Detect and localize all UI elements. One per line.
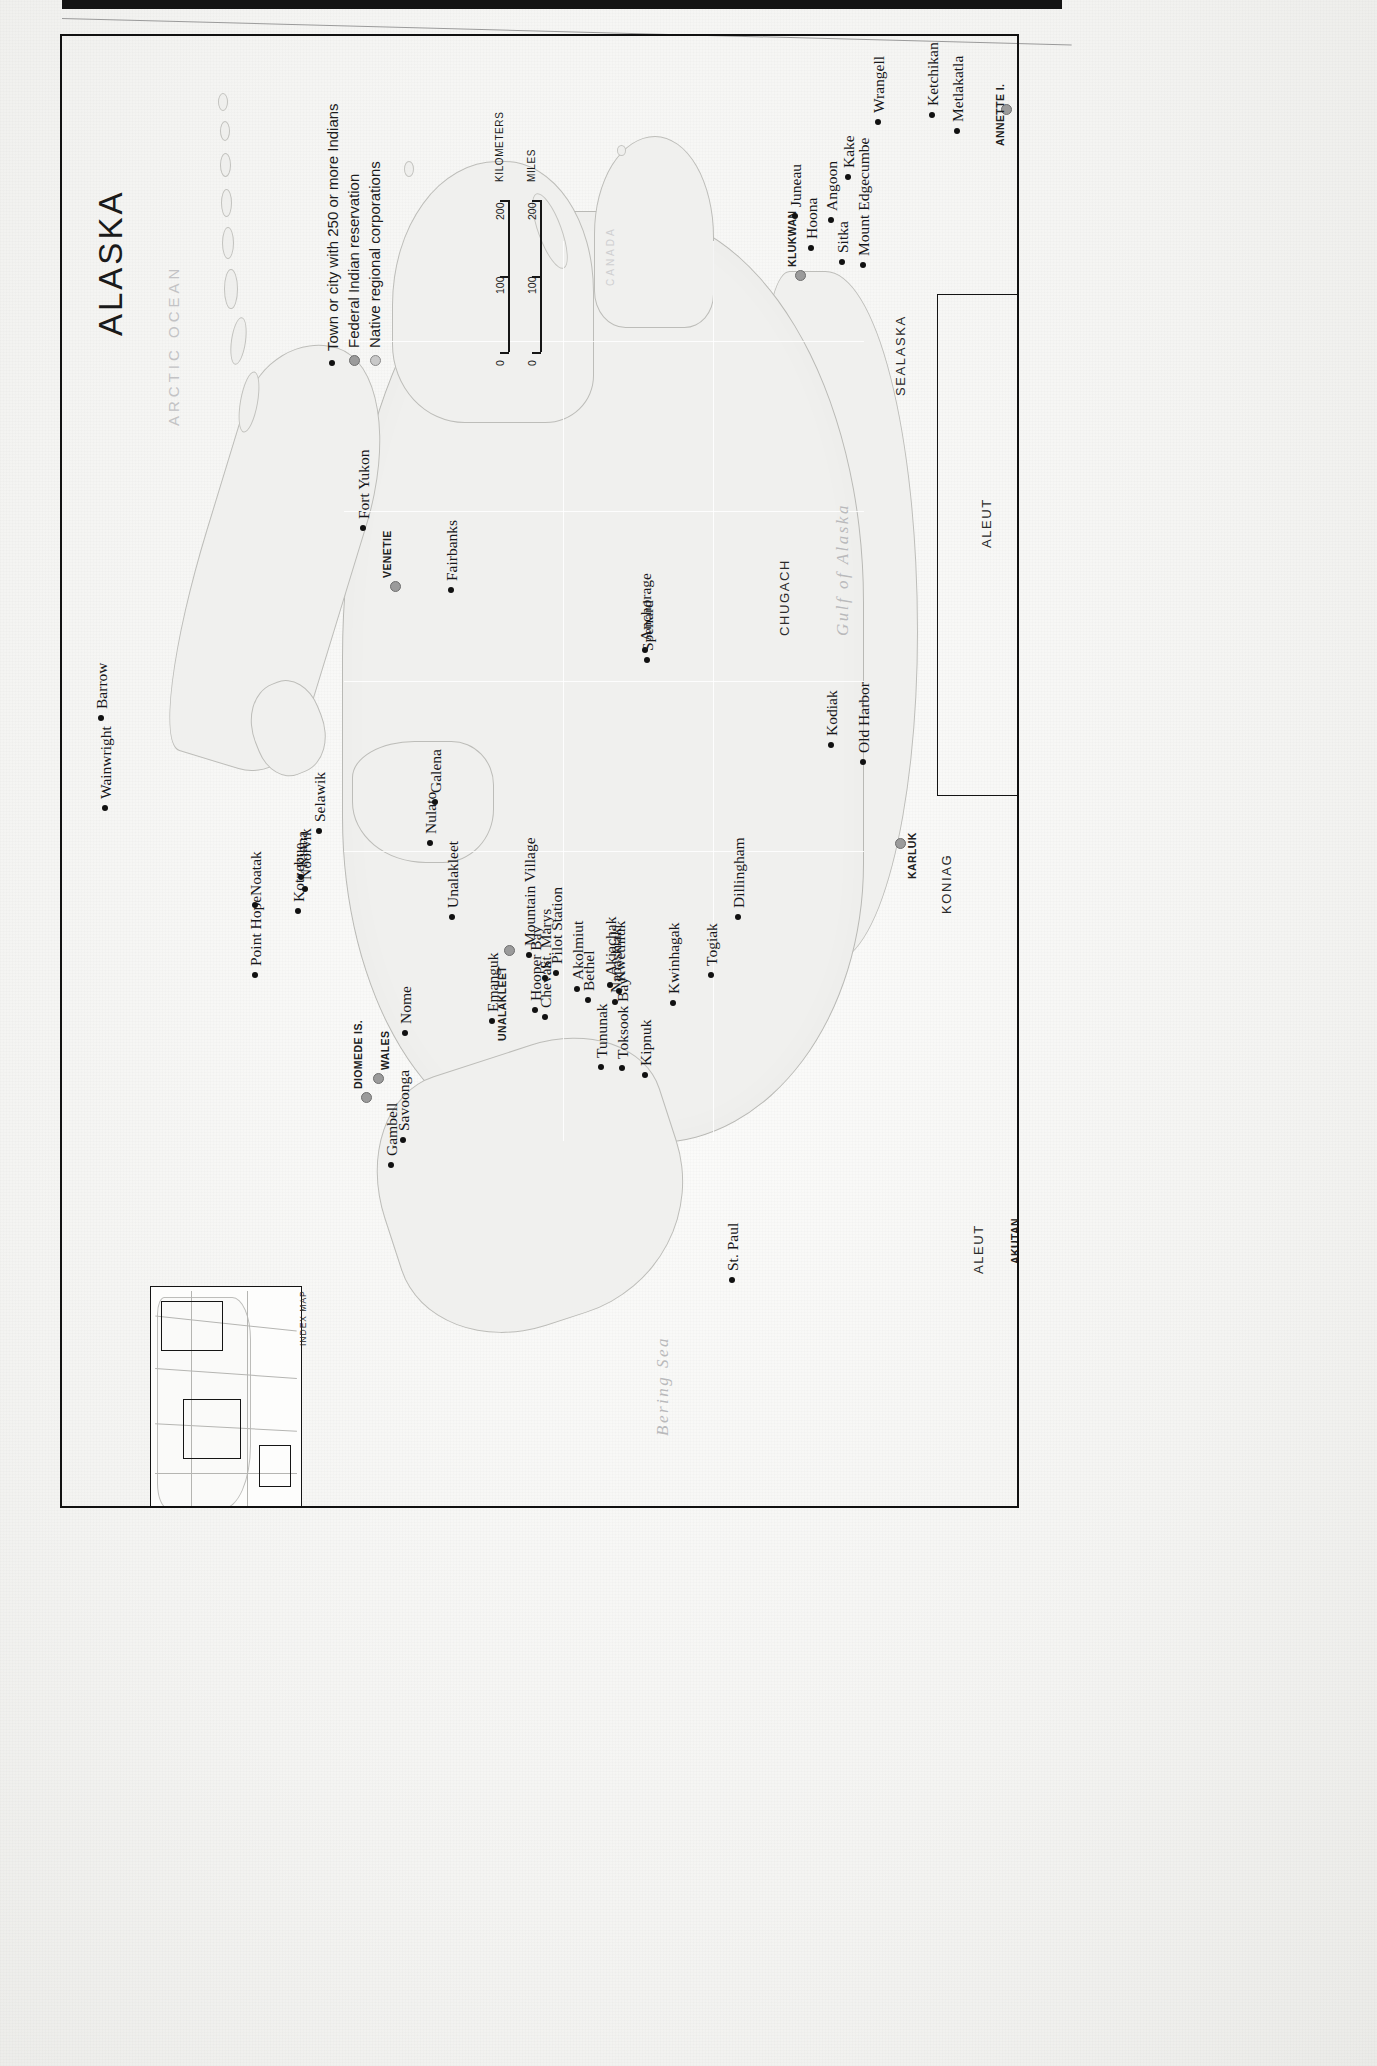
graticule-line [563,241,564,1141]
town-dot[interactable] [860,262,866,268]
town-dot[interactable] [792,213,798,219]
scale-unit-label: MILES [526,149,537,182]
reservation-dot-klukwan[interactable] [795,270,806,281]
reservation-label-diomede: DIOMEDE IS. [353,1020,364,1089]
water-label-arctic-ocean: ARCTIC OCEAN [166,265,181,426]
town-dot[interactable] [670,1000,676,1006]
town-dot[interactable] [929,112,935,118]
town-dot[interactable] [954,128,960,134]
reservation-dot-icon [349,355,360,366]
town-dot[interactable] [449,914,455,920]
town-label: Kwinhagak [666,923,682,994]
page-title: ALASKA [92,190,130,336]
town-dot[interactable] [400,1137,406,1143]
town-label: Pilot Station [549,887,565,964]
town-dot[interactable] [448,587,454,593]
town-dot[interactable] [585,997,591,1003]
aleutian-island [222,227,234,259]
town-label: Noorvik [298,828,314,880]
aleutian-island [218,93,228,111]
aleutian-island [220,121,230,141]
town-label: Hoona [804,198,820,239]
legend-label: Native regional corporations [366,161,383,348]
town-label: Fairbanks [444,520,460,581]
town-dot[interactable] [729,1277,735,1283]
reservation-dot-venetie[interactable] [390,581,401,592]
scale-tick-label: 200 [526,202,538,220]
town-label: Dillingham [731,837,747,908]
country-label-canada: CANADA [606,226,616,286]
town-dot[interactable] [845,174,851,180]
town-dot[interactable] [432,799,438,805]
index-highlight-box[interactable] [259,1445,291,1487]
index-highlight-box[interactable] [183,1399,241,1459]
town-dot[interactable] [526,952,532,958]
aleutian-island [228,316,250,366]
town-label: Metlakatla [950,56,966,122]
town-dot[interactable] [598,1064,604,1070]
graticule-line [344,511,864,512]
town-label: Togiak [704,923,720,966]
town-dot[interactable] [735,914,741,920]
town-label: Emanguk [485,953,501,1012]
town-dot[interactable] [708,972,714,978]
water-label-gulf-of-alaska: Gulf of Alaska [834,503,851,636]
town-label: Kipnuk [638,1020,654,1067]
town-dot[interactable] [489,1018,495,1024]
town-dot[interactable] [839,259,845,265]
town-label: Nome [398,986,414,1024]
legend-item-reservation: Federal Indian reservation [345,174,362,366]
reservation-dot-karluk[interactable] [895,838,906,849]
town-dot[interactable] [102,805,108,811]
reservation-dot-unalakleet[interactable] [504,945,515,956]
town-dot[interactable] [642,1072,648,1078]
scale-tick-label: 0 [494,360,506,366]
legend-item-town: Town or city with 250 or more Indians [324,103,341,366]
index-highlight-box[interactable] [161,1301,223,1351]
town-dot[interactable] [316,828,322,834]
town-dot[interactable] [295,908,301,914]
town-dot[interactable] [542,975,548,981]
corporation-label-koniag: KONIAG [940,854,953,914]
reservation-label-venetie: VENETIE [382,530,393,578]
town-label: Nulato [423,792,439,834]
reservation-dot-akutan[interactable] [1017,1222,1019,1233]
town-dot[interactable] [252,972,258,978]
town-dot[interactable] [388,1162,394,1168]
town-dot[interactable] [402,1030,408,1036]
index-grid-line [247,1291,248,1508]
scanned-page: ALASKA Town or city with 250 or more Ind… [0,0,1377,2066]
town-label: Wrangell [871,56,887,113]
town-label: Juneau [788,164,804,207]
town-dot[interactable] [644,657,650,663]
index-map[interactable] [150,1286,302,1508]
scale-tick-label: 0 [526,360,538,366]
map-frame: ALASKA Town or city with 250 or more Ind… [60,34,1019,1508]
reservation-dot-diomede[interactable] [361,1092,372,1103]
town-dot[interactable] [875,119,881,125]
town-label: Toksook Bay [615,977,631,1059]
reservation-label-annette: ANNETTE I. [995,84,1006,146]
town-dot[interactable] [542,1014,548,1020]
corporation-dot-icon [370,355,381,366]
town-dot[interactable] [860,759,866,765]
town-dot[interactable] [252,902,258,908]
town-dot[interactable] [808,245,814,251]
reservation-dot-wales[interactable] [373,1073,384,1084]
town-label: Sitka [835,221,851,253]
reservation-label-akutan: AKUTAN [1010,1218,1019,1264]
town-dot[interactable] [98,715,104,721]
town-dot[interactable] [553,970,559,976]
town-label: Spenard [640,600,656,651]
scale-tick-label: 200 [494,202,506,220]
town-label: Angoon [824,161,840,211]
town-dot[interactable] [302,886,308,892]
town-dot[interactable] [828,742,834,748]
town-label: Ketchikan [925,42,941,106]
scale-tick-label: 100 [526,276,538,294]
water-label-bering-sea: Bering Sea [654,1336,671,1436]
town-dot[interactable] [427,840,433,846]
aleutian-island [221,189,232,217]
town-dot[interactable] [360,525,366,531]
town-dot[interactable] [619,1065,625,1071]
